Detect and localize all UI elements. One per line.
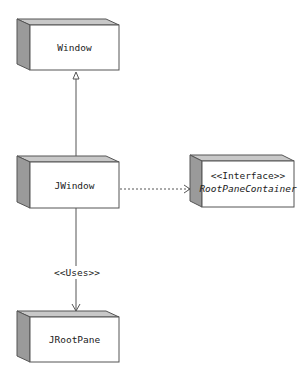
edge-realization-jwindow-rootpanecontainer (120, 185, 190, 193)
node-label-jwindow: JWindow (54, 180, 94, 191)
hollow-triangle-arrowhead-icon (73, 72, 79, 79)
edge-generalization-jwindow-window (73, 72, 79, 156)
edge-label-uses: <<Uses>> (54, 267, 100, 278)
node-label-jrootpane: JRootPane (49, 334, 101, 345)
edge-uses-jwindow-jrootpane: <<Uses>> (54, 208, 100, 311)
uml-diagram: <<Uses>> Window JWindow <<Interface>> Ro… (0, 0, 308, 380)
node-label-rootpanecontainer: RootPaneContainer (199, 183, 297, 194)
node-window[interactable]: Window (17, 19, 119, 70)
node-stereotype-interface: <<Interface>> (211, 170, 286, 181)
node-label-window: Window (57, 42, 92, 53)
node-jwindow[interactable]: JWindow (17, 156, 119, 208)
node-rootpanecontainer[interactable]: <<Interface>> RootPaneContainer (190, 155, 297, 207)
node-jrootpane[interactable]: JRootPane (17, 311, 119, 362)
